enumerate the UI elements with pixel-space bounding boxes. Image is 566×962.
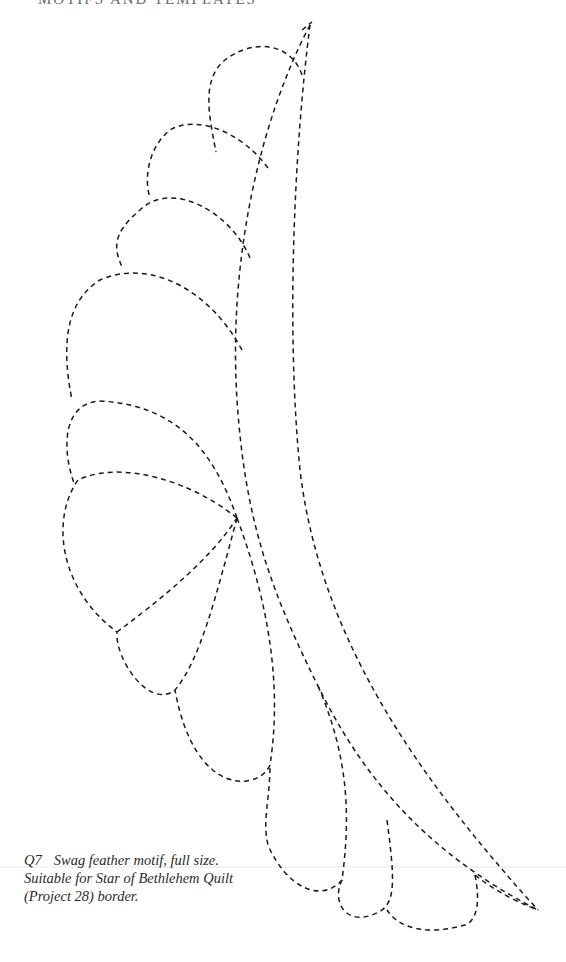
feather-6	[63, 472, 237, 632]
feather-6-lower	[117, 518, 237, 632]
figure-number: Q7	[24, 852, 42, 868]
caption-text-1: Swag feather motif, full size.	[54, 852, 219, 868]
caption-line-1: Q7Swag feather motif, full size.	[24, 851, 264, 869]
swag-feather-motif	[0, 0, 566, 962]
feather-7	[117, 518, 237, 695]
feather-10	[338, 820, 392, 917]
outer-stem-line	[293, 25, 538, 910]
caption-line-3: (Project 28) border.	[24, 887, 264, 905]
feather-8	[175, 518, 274, 781]
caption-line-2: Suitable for Star of Bethlehem Quilt	[24, 869, 264, 887]
feather-4	[67, 273, 242, 400]
feather-2	[147, 124, 268, 197]
inner-stem-line	[235, 25, 538, 910]
feather-11	[387, 875, 478, 930]
feather-3	[117, 198, 250, 267]
feather-1	[209, 46, 302, 152]
feather-12	[475, 875, 538, 910]
figure-caption: Q7Swag feather motif, full size. Suitabl…	[24, 851, 264, 905]
book-page: MOTIFS AND TEMPLATES Q7Swag feather moti…	[0, 0, 566, 962]
